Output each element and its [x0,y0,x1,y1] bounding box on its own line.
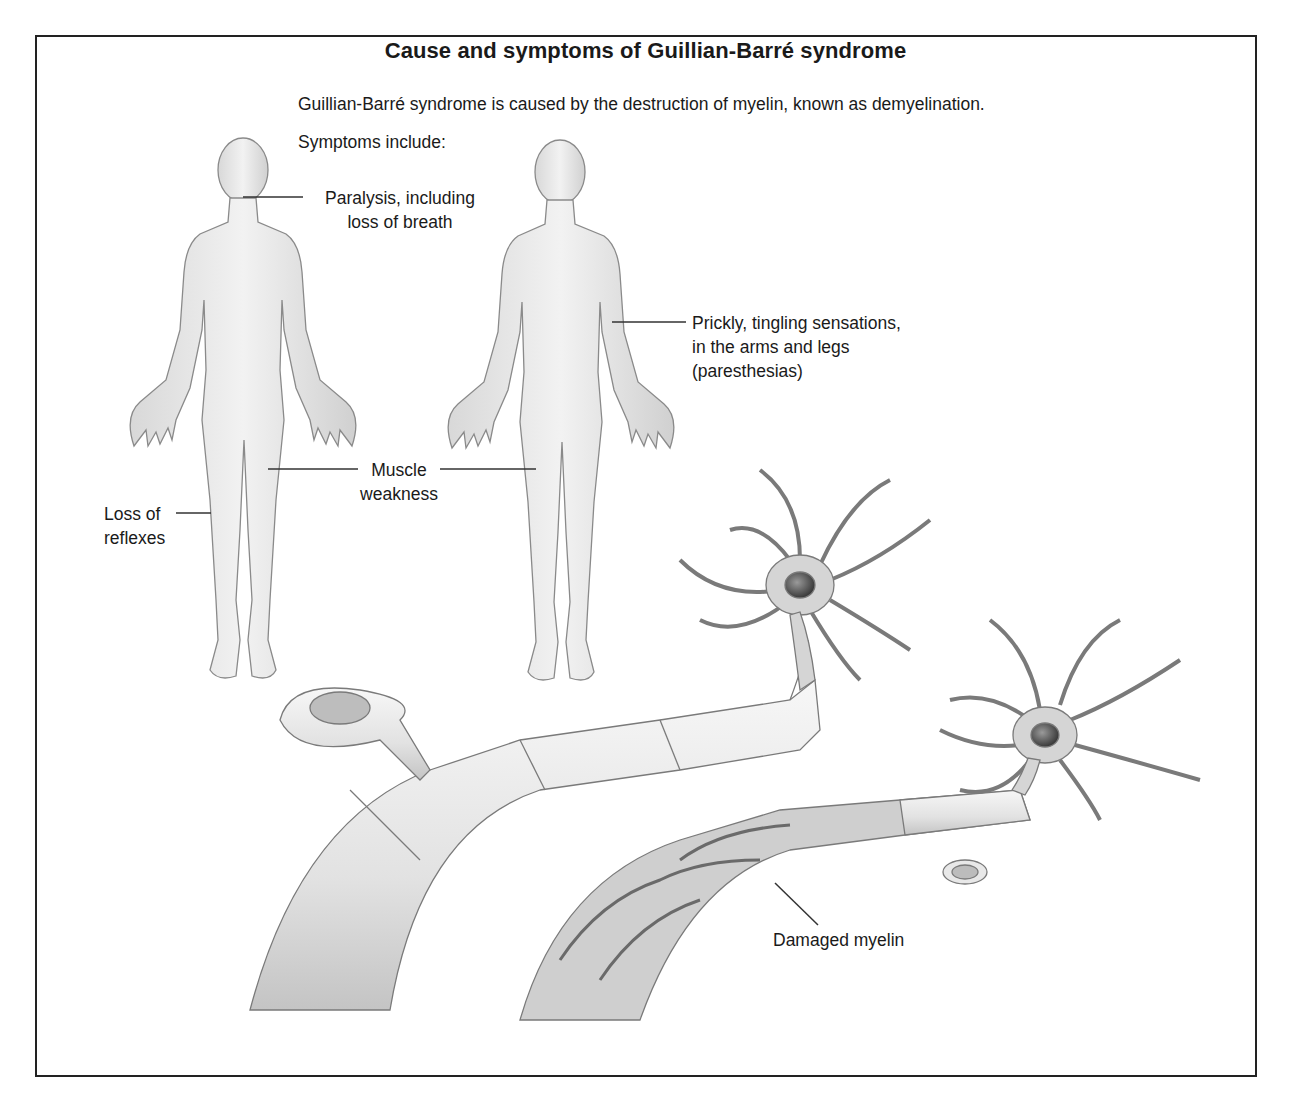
label-line: loss of breath [300,210,500,234]
damaged-myelin-nerve [520,790,1030,1020]
label-line: Prickly, tingling sensations, [692,311,901,335]
label-prickly: Prickly, tingling sensations, in the arm… [692,311,901,383]
neuron-cell-lower [940,620,1200,820]
label-paralysis: Paralysis, including loss of breath [300,186,500,234]
label-line: reflexes [104,526,165,550]
label-line: (paresthesias) [692,359,901,383]
label-damaged-myelin: Damaged myelin [773,928,904,952]
neuron-cell-upper [680,470,930,690]
label-muscle-weakness: Muscle weakness [345,458,453,506]
label-line: Loss of [104,502,165,526]
label-loss-of-reflexes: Loss of reflexes [104,502,165,550]
label-line: Paralysis, including [300,186,500,210]
damaged-myelin-leader [775,883,818,925]
label-line: Muscle [345,458,453,482]
label-line: weakness [345,482,453,506]
illustration [0,0,1291,1120]
label-line: in the arms and legs [692,335,901,359]
